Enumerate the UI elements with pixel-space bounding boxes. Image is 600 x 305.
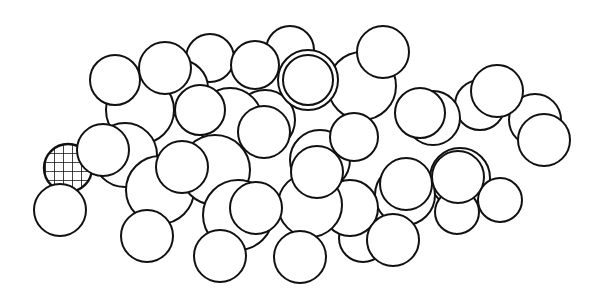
molecular-space-filling-model <box>0 0 600 305</box>
atom-sphere <box>77 124 129 176</box>
atom-sphere <box>139 42 191 94</box>
atom-sphere <box>518 114 570 166</box>
atom-sphere <box>367 214 419 266</box>
atom-sphere <box>395 88 445 138</box>
atom-spheres <box>34 26 570 283</box>
atom-sphere <box>231 41 279 89</box>
atom-sphere <box>291 146 343 198</box>
atom-sphere <box>478 178 522 222</box>
atom-sphere <box>330 113 378 161</box>
atom-sphere <box>274 231 326 283</box>
atom-sphere <box>432 151 484 203</box>
atom-sphere <box>230 182 282 234</box>
atom-sphere <box>357 26 409 78</box>
atom-sphere <box>283 55 333 105</box>
atom-sphere <box>90 55 140 105</box>
atom-sphere <box>194 230 246 282</box>
atom-sphere <box>156 141 208 193</box>
atom-sphere <box>34 184 86 236</box>
atom-sphere <box>471 65 523 117</box>
atom-sphere <box>238 106 290 158</box>
atom-sphere <box>121 210 173 262</box>
atom-sphere <box>380 158 432 210</box>
atom-sphere <box>175 85 225 135</box>
